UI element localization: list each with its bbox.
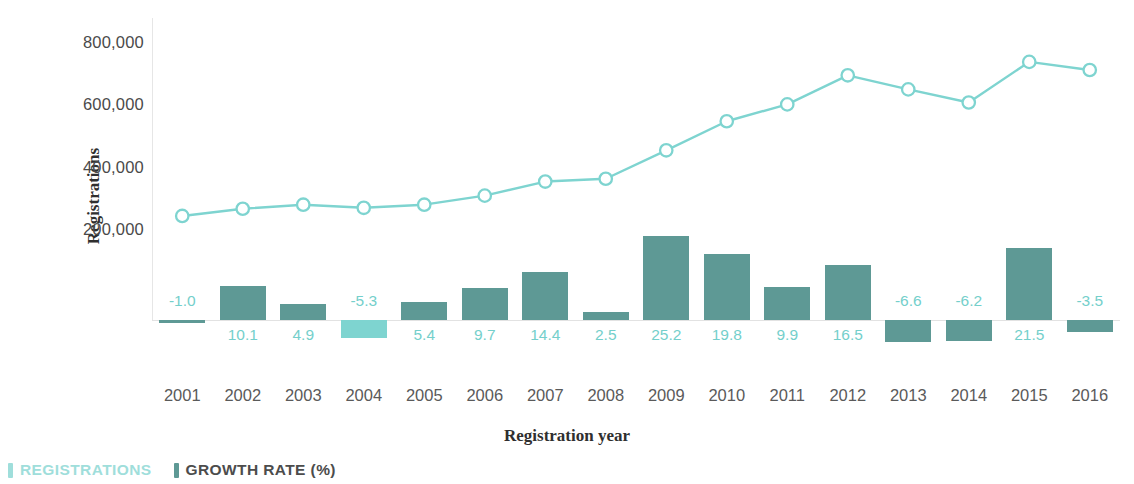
growth-rate-value-label: 21.5 <box>999 326 1060 344</box>
x-axis-tick-label: 2009 <box>636 386 697 405</box>
legend-swatch-growth-rate <box>174 463 179 478</box>
x-axis-tick-labels: 2001200220032004200520062007200820092010… <box>152 386 1120 410</box>
growth-rate-bar[interactable] <box>522 272 568 320</box>
growth-rate-bar[interactable] <box>885 320 931 342</box>
chart-legend: REGISTRATIONS GROWTH RATE (%) <box>8 461 336 479</box>
growth-rate-bar[interactable] <box>159 320 205 323</box>
growth-rate-value-label: 9.9 <box>757 326 818 344</box>
growth-rate-bar[interactable] <box>764 287 810 320</box>
growth-rate-value-label: 9.7 <box>455 326 516 344</box>
growth-rate-bar[interactable] <box>583 312 629 320</box>
growth-rate-value-label: 5.4 <box>394 326 455 344</box>
x-axis-tick-label: 2015 <box>999 386 1060 405</box>
x-axis-tick-label: 2011 <box>757 386 818 405</box>
growth-rate-bar[interactable] <box>220 286 266 320</box>
legend-item-registrations[interactable]: REGISTRATIONS <box>8 461 152 479</box>
x-axis-tick-label: 2013 <box>878 386 939 405</box>
x-axis-tick-label: 2007 <box>515 386 576 405</box>
growth-rate-bar[interactable] <box>704 254 750 320</box>
y-axis-tick-label: 600,000 <box>83 95 144 114</box>
legend-label-growth-rate: GROWTH RATE (%) <box>186 461 336 479</box>
x-axis-tick-label: 2005 <box>394 386 455 405</box>
growth-rate-value-label: -5.3 <box>334 292 395 310</box>
x-axis-tick-label: 2012 <box>818 386 879 405</box>
x-axis-tick-label: 2016 <box>1060 386 1121 405</box>
x-axis-tick-label: 2002 <box>213 386 274 405</box>
x-axis-tick-label: 2010 <box>697 386 758 405</box>
growth-rate-value-label: 2.5 <box>576 326 637 344</box>
growth-rate-value-label: -6.2 <box>939 292 1000 310</box>
legend-swatch-registrations <box>8 463 13 478</box>
legend-label-registrations: REGISTRATIONS <box>20 461 152 479</box>
growth-rate-bar[interactable] <box>401 302 447 320</box>
legend-item-growth-rate[interactable]: GROWTH RATE (%) <box>174 461 336 479</box>
y-axis-tick-label: 200,000 <box>83 220 144 239</box>
growth-rate-value-label: -6.6 <box>878 292 939 310</box>
growth-rate-bar[interactable] <box>946 320 992 341</box>
x-axis-tick-label: 2014 <box>939 386 1000 405</box>
x-axis-tick-label: 2001 <box>152 386 213 405</box>
growth-rate-value-label: -1.0 <box>152 292 213 310</box>
growth-rate-bar[interactable] <box>280 304 326 320</box>
growth-rate-value-label: 25.2 <box>636 326 697 344</box>
y-axis-tick-label: 400,000 <box>83 158 144 177</box>
x-axis-title: Registration year <box>0 426 1134 446</box>
growth-rate-bar[interactable] <box>462 288 508 320</box>
y-axis-tick-label: 800,000 <box>83 33 144 52</box>
growth-rate-bar[interactable] <box>1067 320 1113 332</box>
x-axis-tick-label: 2004 <box>334 386 395 405</box>
growth-rate-value-label: 4.9 <box>273 326 334 344</box>
growth-rate-bar[interactable] <box>341 320 387 338</box>
growth-rate-value-label: 19.8 <box>697 326 758 344</box>
growth-rate-bar[interactable] <box>1006 248 1052 320</box>
growth-rate-bar[interactable] <box>825 265 871 320</box>
growth-rate-value-label: 10.1 <box>213 326 274 344</box>
registrations-growth-combo-chart: Registrations 200,000400,000600,000800,0… <box>0 0 1134 484</box>
x-axis-tick-label: 2008 <box>576 386 637 405</box>
y-axis-tick-labels: 200,000400,000600,000800,000 <box>60 0 152 484</box>
x-axis-tick-label: 2006 <box>455 386 516 405</box>
growth-rate-bar-series: -1.010.14.9-5.35.49.714.42.525.219.89.91… <box>152 0 1120 484</box>
growth-rate-value-label: 14.4 <box>515 326 576 344</box>
x-axis-tick-label: 2003 <box>273 386 334 405</box>
growth-rate-value-label: -3.5 <box>1060 292 1121 310</box>
growth-rate-value-label: 16.5 <box>818 326 879 344</box>
growth-rate-bar[interactable] <box>643 236 689 320</box>
